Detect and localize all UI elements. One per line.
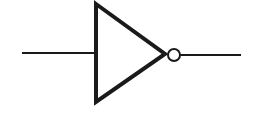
gate-triangle-body — [96, 4, 165, 102]
not-gate-diagram — [0, 0, 271, 122]
inversion-bubble — [168, 49, 180, 61]
